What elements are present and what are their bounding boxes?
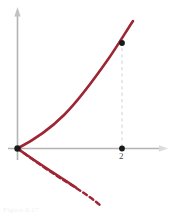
curve-point-marker: [119, 40, 125, 46]
curve-lower-branch-solid: [18, 149, 77, 188]
x-axis-arrowhead-icon: [159, 145, 168, 151]
figure-caption-fragment: Figure 6.17: [3, 207, 39, 214]
origin-point-marker: [14, 145, 20, 151]
curve-upper-branch: [18, 21, 134, 149]
y-axis-arrowhead-icon: [14, 7, 20, 17]
plot-canvas: [0, 0, 174, 217]
figure-container: 2 Figure 6.17: [0, 0, 174, 217]
x-axis-tick-label-2: 2: [119, 152, 124, 161]
